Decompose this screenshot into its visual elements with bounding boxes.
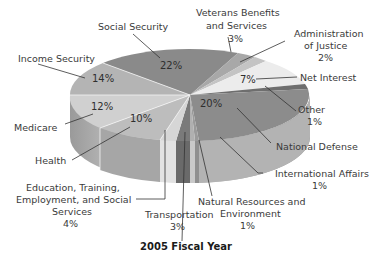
label-other-pct: 1% [307,116,322,127]
label-justice-pct: 2% [318,52,333,63]
label-international-affairs-pct: 1% [312,180,327,191]
budget-pie-chart: 22% 14% 12% 10% 7% 20% Social Security V… [0,0,372,254]
label-social-security: Social Security [98,21,169,32]
label-veterans-pct: 3% [228,33,243,44]
label-justice-line2: of Justice [304,40,348,51]
label-natural-resources-line1: Natural Resources and [198,196,305,207]
label-education-line2: Employment, and Social [16,194,131,205]
pct-income-security: 14% [92,73,114,84]
label-transportation: Transportation [144,209,214,220]
wall-education [160,140,176,183]
label-natural-resources-pct: 1% [240,220,255,231]
label-medicare: Medicare [14,122,57,133]
label-transportation-pct: 3% [170,221,185,232]
label-net-interest: Net Interest [300,72,357,83]
wall-international [195,141,199,183]
label-international-affairs: International Affairs [275,168,369,179]
label-veterans-line1: Veterans Benefits [196,7,280,18]
pct-health: 10% [130,113,152,124]
label-other: Other [298,104,325,115]
pct-social-security: 22% [160,60,182,71]
label-education-line1: Education, Training, [26,182,120,193]
label-income-security: Income Security [18,53,95,64]
label-education-line3: Services [52,206,92,217]
label-national-defense: National Defense [276,141,358,152]
chart-title: 2005 Fiscal Year [140,241,232,252]
label-veterans-line2: and Services [206,20,267,31]
label-justice-line1: Administration [294,28,364,39]
pct-net-interest: 7% [240,74,256,85]
label-natural-resources-line2: Environment [220,208,281,219]
wall-natural-resources [190,141,195,183]
pct-medicare: 12% [91,101,113,112]
pct-national-defense: 20% [200,98,222,109]
label-education-pct: 4% [63,218,78,229]
wall-transportation [176,141,190,183]
label-health: Health [35,155,66,166]
